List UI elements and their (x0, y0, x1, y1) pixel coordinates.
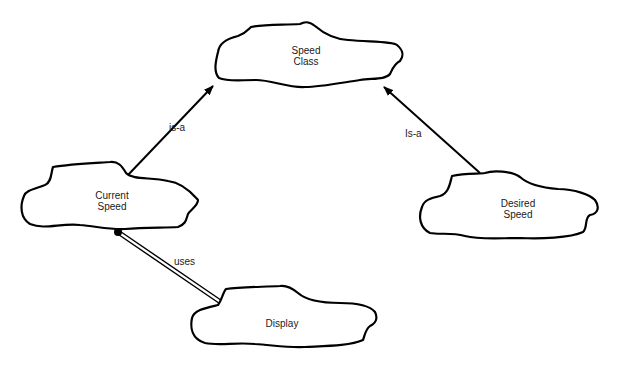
uses-line-inner (118, 232, 222, 303)
node-label-current-speed: Current Speed (82, 190, 142, 212)
node-label-line: Class (276, 56, 336, 67)
edge-label-is-a-right: Is-a (405, 128, 422, 139)
node-label-line: Current (82, 190, 142, 201)
cloud-shape (191, 286, 376, 347)
node-label-line: Speed (276, 45, 336, 56)
edge-desired-is-a-speed (384, 87, 480, 173)
node-display[interactable] (191, 286, 376, 347)
node-label-line: Speed (488, 209, 548, 220)
node-label-desired-speed: Desired Speed (488, 198, 548, 220)
node-label-line: Desired (488, 198, 548, 209)
node-label-line: Speed (82, 201, 142, 212)
node-label-speed-class: Speed Class (276, 45, 336, 67)
edge-label-uses: uses (174, 256, 195, 267)
inheritance-arrow (384, 87, 480, 173)
node-label-display: Display (252, 318, 312, 329)
node-label-line: Display (252, 318, 312, 329)
edge-label-is-a-left: is-a (169, 122, 185, 133)
edge-current-uses-display (114, 228, 222, 303)
